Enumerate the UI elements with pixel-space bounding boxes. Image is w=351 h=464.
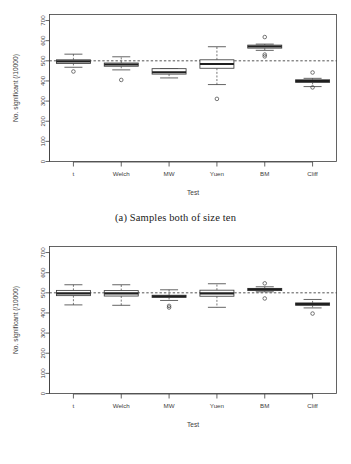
x-tick-label: Cliff bbox=[307, 170, 318, 177]
boxplot-t bbox=[56, 285, 90, 305]
boxplot-bm bbox=[248, 35, 282, 58]
outlier-point bbox=[263, 282, 267, 286]
y-tick-label: 0 bbox=[39, 391, 46, 395]
boxplot-mw bbox=[152, 69, 186, 78]
y-tick-label: 100 bbox=[39, 368, 46, 379]
plot-frame bbox=[50, 15, 337, 162]
boxplot-yuen bbox=[200, 47, 234, 101]
boxplot-chart-b: 0100200300400500600700No. significant (/… bbox=[0, 232, 351, 444]
plot-frame bbox=[50, 247, 337, 394]
y-axis: 0100200300400500600700No. significant (/… bbox=[12, 15, 50, 163]
boxplot-welch bbox=[104, 285, 138, 306]
outlier-point bbox=[72, 70, 76, 74]
y-tick-label: 400 bbox=[39, 307, 46, 318]
y-axis: 0100200300400500600700No. significant (/… bbox=[12, 247, 50, 395]
y-tick-label: 200 bbox=[39, 116, 46, 127]
y-tick-label: 100 bbox=[39, 136, 46, 147]
x-tick-label: MW bbox=[164, 170, 175, 177]
x-tick-label: BM bbox=[260, 402, 269, 409]
outlier-point bbox=[263, 35, 267, 39]
y-tick-label: 300 bbox=[39, 327, 46, 338]
y-tick-label: 600 bbox=[39, 35, 46, 46]
outlier-point bbox=[263, 297, 267, 301]
outlier-point bbox=[215, 97, 219, 101]
boxplot-chart-a: 0100200300400500600700No. significant (/… bbox=[0, 0, 351, 212]
y-tick-label: 500 bbox=[39, 55, 46, 66]
figure-caption-a: (a) Samples both of size ten bbox=[0, 212, 351, 223]
x-tick-label: t bbox=[73, 170, 75, 177]
x-tick-label: Welch bbox=[113, 170, 131, 177]
figure-panel-b: 0100200300400500600700No. significant (/… bbox=[0, 232, 351, 464]
y-axis-title: No. significant (/10000) bbox=[12, 286, 20, 354]
x-axis: tWelchMWYuenBMCliffTest bbox=[73, 394, 319, 428]
boxplot-yuen bbox=[200, 284, 234, 308]
y-axis-title: No. significant (/10000) bbox=[12, 54, 20, 122]
boxplot-t bbox=[56, 54, 90, 73]
outlier-point bbox=[311, 71, 315, 75]
boxplot-bm bbox=[248, 282, 282, 301]
y-tick-label: 300 bbox=[39, 95, 46, 106]
x-tick-label: MW bbox=[164, 402, 175, 409]
y-tick-label: 600 bbox=[39, 267, 46, 278]
x-tick-label: Welch bbox=[113, 402, 131, 409]
x-axis-title: Test bbox=[187, 189, 199, 196]
y-tick-label: 200 bbox=[39, 348, 46, 359]
boxplot-cliff bbox=[296, 299, 330, 315]
outlier-point bbox=[311, 312, 315, 316]
x-axis: tWelchMWYuenBMCliffTest bbox=[73, 162, 319, 196]
y-tick-label: 500 bbox=[39, 287, 46, 298]
y-tick-label: 700 bbox=[39, 15, 46, 26]
x-tick-label: Yuen bbox=[210, 402, 225, 409]
outlier-point bbox=[119, 78, 123, 82]
x-tick-label: t bbox=[73, 402, 75, 409]
x-tick-label: Cliff bbox=[307, 402, 318, 409]
figure-panel-a: 0100200300400500600700No. significant (/… bbox=[0, 0, 351, 232]
x-tick-label: Yuen bbox=[210, 170, 225, 177]
x-axis-title: Test bbox=[187, 421, 199, 428]
x-tick-label: BM bbox=[260, 170, 269, 177]
y-tick-label: 400 bbox=[39, 75, 46, 86]
boxplot-cliff bbox=[296, 71, 330, 90]
y-tick-label: 700 bbox=[39, 247, 46, 258]
y-tick-label: 0 bbox=[39, 159, 46, 163]
